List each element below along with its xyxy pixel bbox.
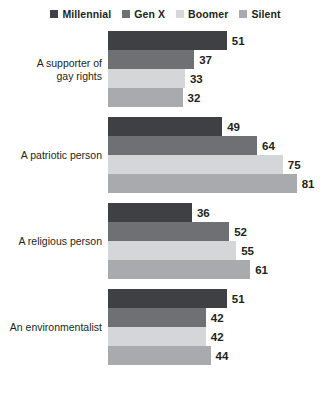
legend-item-silent[interactable]: Silent	[239, 9, 280, 20]
bar-stack: 51424244	[108, 289, 331, 365]
bar-group: A religious person36525561	[0, 203, 331, 279]
bar[interactable]	[108, 69, 185, 88]
bar-group: A patriotic person49647581	[0, 117, 331, 193]
bar-value-label: 51	[232, 35, 245, 47]
bar-row: 49	[108, 117, 331, 136]
bar[interactable]	[108, 346, 211, 365]
bar[interactable]	[108, 88, 183, 107]
category-label: A supporter ofgay rights	[0, 57, 102, 82]
bar-value-label: 64	[262, 140, 275, 152]
bar[interactable]	[108, 241, 236, 260]
bar[interactable]	[108, 50, 194, 69]
legend-item-millennial[interactable]: Millennial	[50, 9, 111, 20]
bar[interactable]	[108, 155, 283, 174]
category-label: An environmentalist	[0, 321, 102, 334]
legend-label: Millennial	[62, 9, 111, 20]
bar-stack: 51373332	[108, 31, 331, 107]
bar-value-label: 61	[255, 264, 268, 276]
bar-value-label: 32	[188, 92, 201, 104]
bar-row: 42	[108, 327, 331, 346]
bar-row: 52	[108, 222, 331, 241]
bar-row: 33	[108, 69, 331, 88]
bar-value-label: 49	[227, 121, 240, 133]
bar-row: 81	[108, 174, 331, 193]
category-label-line: An environmentalist	[0, 321, 102, 334]
bar-row: 32	[108, 88, 331, 107]
bar-row: 55	[108, 241, 331, 260]
category-label-line: gay rights	[0, 69, 102, 82]
legend-swatch-icon	[122, 10, 130, 18]
bar-value-label: 36	[197, 207, 210, 219]
bar-row: 36	[108, 203, 331, 222]
bar[interactable]	[108, 308, 206, 327]
bar[interactable]	[108, 289, 227, 308]
legend-label: Boomer	[188, 9, 228, 20]
bar-row: 61	[108, 260, 331, 279]
category-label-line: A patriotic person	[0, 149, 102, 162]
bar-row: 51	[108, 289, 331, 308]
bar-value-label: 81	[302, 178, 315, 190]
bar-row: 64	[108, 136, 331, 155]
category-label: A religious person	[0, 235, 102, 248]
bar[interactable]	[108, 260, 250, 279]
legend-label: Gen X	[134, 9, 165, 20]
bar[interactable]	[108, 174, 297, 193]
legend-swatch-icon	[50, 10, 58, 18]
legend-swatch-icon	[239, 10, 247, 18]
bar[interactable]	[108, 117, 222, 136]
category-label-line: A religious person	[0, 235, 102, 248]
bar-value-label: 42	[211, 312, 224, 324]
chart-legend: MillennialGen XBoomerSilent	[0, 9, 331, 20]
bar-value-label: 51	[232, 293, 245, 305]
category-label-line: A supporter of	[0, 57, 102, 70]
category-label: A patriotic person	[0, 149, 102, 162]
bar-group: An environmentalist51424244	[0, 289, 331, 365]
bar-stack: 36525561	[108, 203, 331, 279]
chart-plot-area: A supporter ofgay rights51373332A patrio…	[0, 31, 331, 391]
bar-value-label: 52	[234, 226, 247, 238]
bar-value-label: 37	[199, 54, 212, 66]
bar-row: 51	[108, 31, 331, 50]
legend-label: Silent	[251, 9, 280, 20]
bar-value-label: 42	[211, 331, 224, 343]
bar-group: A supporter ofgay rights51373332	[0, 31, 331, 107]
legend-item-gen-x[interactable]: Gen X	[122, 9, 165, 20]
bar-row: 37	[108, 50, 331, 69]
bar[interactable]	[108, 136, 257, 155]
legend-swatch-icon	[176, 10, 184, 18]
bar-row: 75	[108, 155, 331, 174]
bar-value-label: 55	[241, 245, 254, 257]
bar[interactable]	[108, 31, 227, 50]
bar[interactable]	[108, 203, 192, 222]
bar-value-label: 75	[288, 159, 301, 171]
bar-row: 44	[108, 346, 331, 365]
legend-item-boomer[interactable]: Boomer	[176, 9, 228, 20]
bar-row: 42	[108, 308, 331, 327]
bar-value-label: 33	[190, 73, 203, 85]
bar[interactable]	[108, 222, 229, 241]
bar[interactable]	[108, 327, 206, 346]
bar-stack: 49647581	[108, 117, 331, 193]
bar-value-label: 44	[216, 350, 229, 362]
